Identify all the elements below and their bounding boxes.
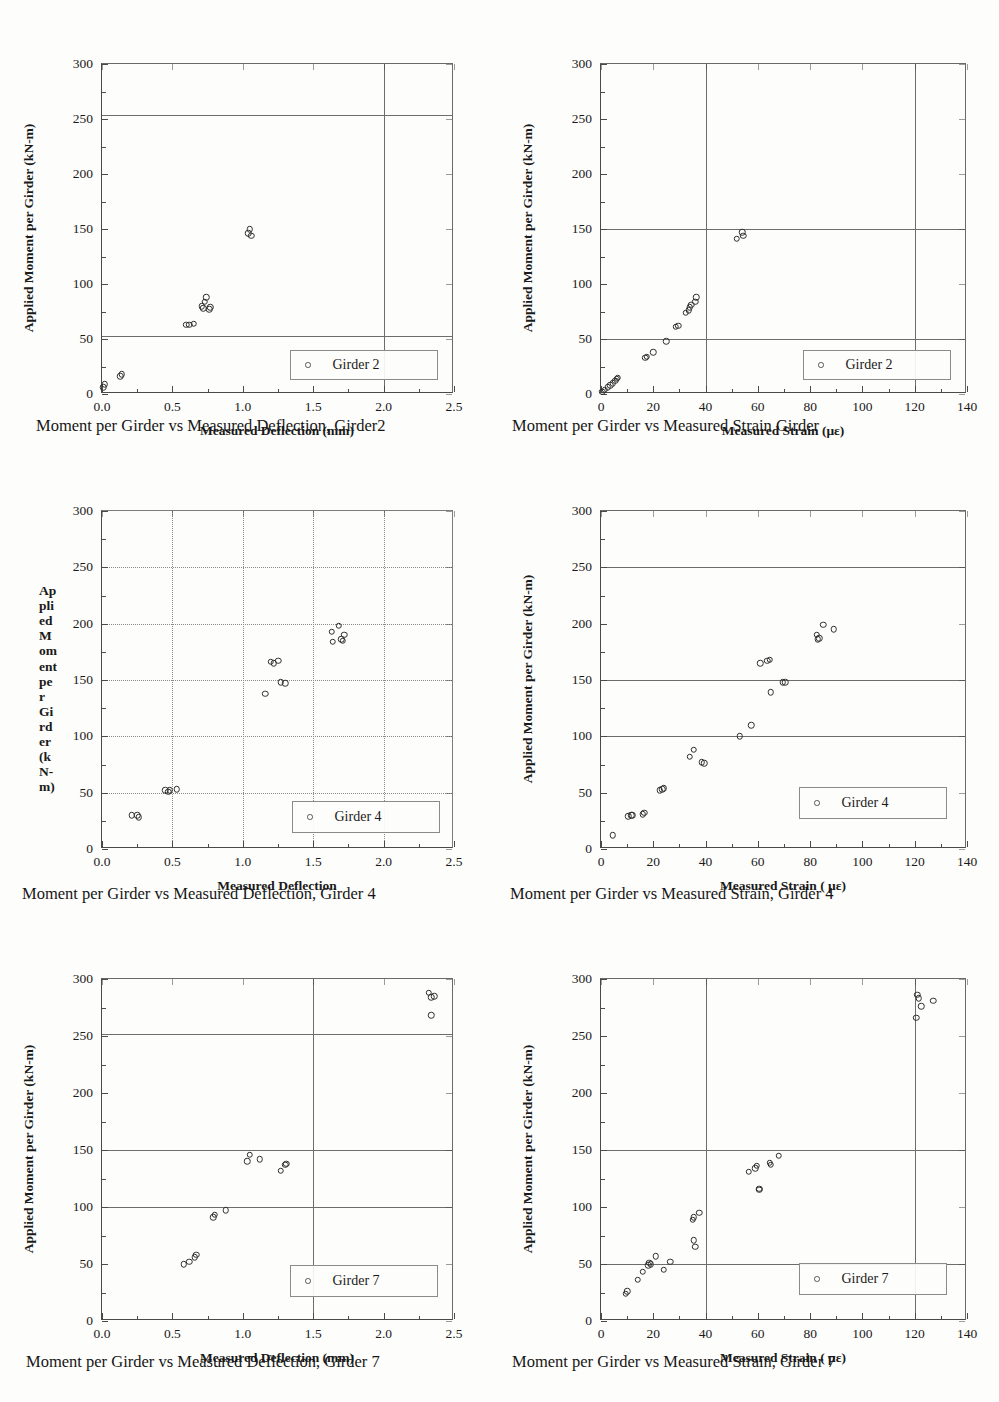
data-point-marker [282,680,289,687]
y-tick-minor [102,1236,106,1237]
x-tick-minor [208,1316,209,1320]
x-tick-label: 1.5 [305,399,322,415]
y-tick-label: 0 [585,841,592,857]
y-tick-major [102,1036,108,1037]
x-tick-minor [679,1316,680,1320]
y-tick-minor [102,1293,106,1294]
data-point-marker [653,1253,660,1260]
y-axis-title: Applied Moment per Girder (kN-m) [21,1045,37,1254]
figure-fig-g7-deflection: 0501001502002503000.00.51.01.52.02.5Gird… [0,948,500,1402]
x-tick-label: 2.0 [375,399,392,415]
gridline-vertical [313,511,314,847]
gridline-vertical [172,511,173,847]
y-tick-major [601,284,607,285]
x-tick-label: 120 [905,854,925,870]
y-tick-major [102,736,108,737]
y-tick-right [446,394,452,395]
y-axis-title: Applied Moment per Girder (kN-m) [520,575,536,784]
x-tick-label: 140 [957,1326,977,1342]
y-tick-label: 50 [80,785,94,801]
y-tick-right [959,1150,965,1151]
x-tick-top [454,979,455,985]
data-point-marker [102,381,109,388]
y-tick-major [601,736,607,737]
y-axis-title-wrapped: AppliedMomentperGirder(kN-m) [39,583,65,795]
legend-marker-icon [814,1276,820,1282]
x-tick-minor [419,389,420,393]
y-tick-major [601,1207,607,1208]
x-tick-top [172,64,173,70]
data-point-marker [736,733,743,740]
data-point-marker [341,632,348,639]
x-tick-major [384,841,385,847]
x-tick-major [758,1313,759,1319]
y-tick-major [601,849,607,850]
y-tick-label: 250 [572,559,592,575]
x-tick-label: 0 [598,399,605,415]
x-tick-label: 0.5 [164,854,181,870]
x-tick-minor [137,844,138,848]
data-point-marker [918,1003,925,1010]
x-tick-major [862,386,863,392]
legend: Girder 7 [799,1263,947,1295]
y-tick-major [102,1150,108,1151]
legend-marker-icon [305,362,311,368]
gridline-horizontal [102,1207,452,1208]
legend: Girder 2 [290,350,438,380]
data-point-marker [691,1237,698,1244]
x-tick-major [172,1313,173,1319]
x-tick-minor [137,389,138,393]
x-tick-major [243,1313,244,1319]
x-tick-major [172,386,173,392]
x-tick-major [810,1313,811,1319]
y-tick-right [446,229,452,230]
x-tick-major [915,1313,916,1319]
data-point-marker [756,1187,763,1194]
x-tick-top [172,979,173,985]
y-tick-minor [601,1293,605,1294]
y-tick-major [102,394,108,395]
y-tick-major [601,1093,607,1094]
x-tick-major [601,841,602,847]
y-tick-minor [102,539,106,540]
x-tick-top [862,64,863,70]
y-tick-minor [601,1008,605,1009]
y-tick-right [959,229,965,230]
gridline-vertical [706,979,707,1319]
y-tick-right [446,849,452,850]
x-tick-top [653,979,654,985]
y-tick-right [959,284,965,285]
x-tick-major [384,386,385,392]
figure-caption: Moment per Girder vs Measured Deflection… [22,884,376,904]
y-tick-minor [601,1179,605,1180]
y-tick-label: 150 [73,1142,93,1158]
x-tick-minor [836,844,837,848]
x-tick-minor [208,844,209,848]
y-tick-major [102,1321,108,1322]
data-point-marker [244,1158,251,1165]
y-tick-minor [102,708,106,709]
y-axis-title-segment: ent [39,659,65,674]
data-point-marker [275,658,282,665]
x-tick-label: 140 [957,854,977,870]
y-axis-title-segment: N- [39,764,65,779]
gridline-horizontal [102,1034,452,1035]
data-point-marker [641,810,648,817]
data-point-marker [247,1151,254,1158]
y-tick-major [102,284,108,285]
data-point-marker [650,349,657,356]
data-point-marker [211,1212,218,1219]
x-tick-minor [627,1316,628,1320]
x-tick-major [601,1313,602,1319]
data-point-marker [278,1167,285,1174]
y-tick-minor [601,367,605,368]
y-tick-major [102,567,108,568]
x-tick-top [915,979,916,985]
y-tick-right [446,624,452,625]
x-tick-major [758,841,759,847]
x-tick-major [706,386,707,392]
x-tick-top [758,64,759,70]
x-tick-top [862,979,863,985]
x-tick-top [810,979,811,985]
y-tick-minor [102,765,106,766]
